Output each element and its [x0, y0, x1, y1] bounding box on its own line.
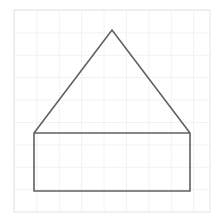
geometry-figure	[0, 0, 223, 223]
figure-canvas	[0, 0, 223, 223]
graph-paper-grid	[14, 10, 210, 212]
